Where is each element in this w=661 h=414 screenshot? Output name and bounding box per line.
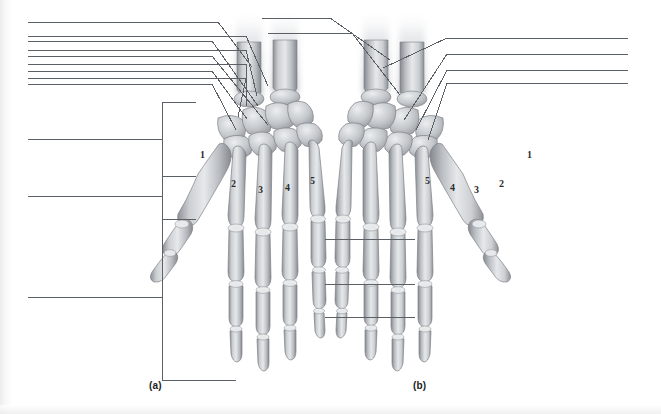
digit-number-a-4: 4	[285, 182, 290, 193]
answer-blank-left-4[interactable]	[28, 84, 196, 85]
answer-blank-left-6[interactable]	[28, 196, 162, 197]
answer-blank-right-2[interactable]	[462, 54, 628, 55]
hand-skeleton-figure: 1 2 3 4 5 5 4 3 2 1 (a) (b)	[0, 0, 661, 414]
answer-blank-left-7[interactable]	[28, 297, 162, 298]
digit-number-b-2: 2	[499, 178, 504, 189]
figure-artboard	[0, 0, 661, 414]
panel-caption-a: (a)	[149, 380, 162, 391]
digit-number-b-4: 4	[450, 182, 455, 193]
digit-number-a-2: 2	[231, 178, 236, 189]
page-edge-shadow-bottom	[0, 405, 661, 414]
digit-number-b-1: 1	[527, 149, 532, 160]
digit-number-a-5: 5	[310, 175, 315, 186]
page-edge-shadow-left	[0, 0, 12, 414]
digit-number-b-3: 3	[474, 184, 479, 195]
answer-blank-right-4[interactable]	[462, 83, 628, 84]
answer-blank-left-3[interactable]	[28, 71, 196, 72]
digit-number-b-5: 5	[425, 175, 430, 186]
panel-caption-b: (b)	[413, 380, 426, 391]
answer-blank-right-1[interactable]	[462, 38, 628, 39]
answer-blank-right-3[interactable]	[462, 70, 628, 71]
answer-blank-left-5[interactable]	[28, 139, 162, 140]
digit-number-a-3: 3	[258, 184, 263, 195]
digit-number-a-1: 1	[200, 149, 205, 160]
figure-background	[0, 0, 661, 414]
answer-blank-left-2[interactable]	[28, 56, 196, 57]
answer-blank-left-1[interactable]	[28, 41, 196, 42]
